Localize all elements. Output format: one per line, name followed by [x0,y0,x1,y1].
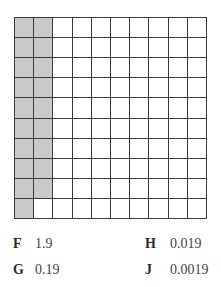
grid-cell [111,18,130,38]
grid-cell-shaded [15,78,34,98]
grid-cell [149,78,168,98]
grid-cell [149,98,168,118]
grid-cell [92,18,111,38]
grid-cell-shaded [15,58,34,78]
grid-cell [111,78,130,98]
grid-cell [130,38,149,58]
grid-cell-shaded [15,199,34,219]
grid-cell-shaded [15,159,34,179]
grid-cell [92,38,111,58]
grid-cell [130,58,149,78]
grid-cell [92,119,111,139]
grid-cell-shaded [34,18,53,38]
grid-cell [188,78,207,98]
grid-cell [53,78,72,98]
grid-cell [92,78,111,98]
grid-cell [53,98,72,118]
grid-cell [92,179,111,199]
grid-cell [53,18,72,38]
grid-cell [188,199,207,219]
grid-cell [188,139,207,159]
grid-cell-shaded [34,98,53,118]
grid-cell [53,119,72,139]
grid-cell [149,18,168,38]
grid-cell [53,199,72,219]
grid-cell [53,159,72,179]
option-letter: J [145,262,170,278]
grid-cell [92,199,111,219]
grid-cell [73,58,92,78]
grid-cell [188,18,207,38]
grid-cell [169,179,188,199]
answer-option-g[interactable]: G0.19 [13,262,60,278]
grid-cell [73,179,92,199]
grid-cell [53,58,72,78]
grid-cell [111,98,130,118]
grid-cell [130,18,149,38]
grid-cell [169,18,188,38]
grid-cell [169,58,188,78]
grid-cell [53,139,72,159]
grid-cell [188,58,207,78]
grid-cell [73,159,92,179]
option-letter: F [13,236,35,252]
grid-cell [169,159,188,179]
grid-cell-shaded [34,159,53,179]
grid-cell [73,18,92,38]
grid-cell-shaded [34,119,53,139]
grid-cell [130,199,149,219]
grid-cell-shaded [34,78,53,98]
grid-cell [169,139,188,159]
grid-cell [169,98,188,118]
grid-cell [73,139,92,159]
grid-cell-shaded [15,179,34,199]
grid-cell [73,38,92,58]
grid-cell [169,199,188,219]
answer-option-j[interactable]: J0.0019 [145,262,209,278]
grid-cell [34,199,53,219]
grid-cell [169,119,188,139]
grid-cell [130,159,149,179]
grid-cell [73,78,92,98]
grid-cell [130,119,149,139]
grid-cell [73,119,92,139]
grid-cell [149,58,168,78]
grid-cell [149,139,168,159]
grid-cell [149,179,168,199]
grid-cell [149,159,168,179]
grid-cell [73,98,92,118]
grid-cell [111,58,130,78]
grid-cell [149,119,168,139]
grid-cell [111,139,130,159]
grid-cell [53,38,72,58]
option-value: 1.9 [35,236,53,251]
grid-cell [188,119,207,139]
grid-cell-shaded [15,119,34,139]
answer-option-h[interactable]: H0.019 [145,236,202,252]
grid-cell-shaded [15,139,34,159]
grid-cell-shaded [34,139,53,159]
grid-cell [149,199,168,219]
grid-cell [92,159,111,179]
grid-cell [130,78,149,98]
grid-cell-shaded [34,38,53,58]
grid-cell [92,98,111,118]
answer-option-f[interactable]: F1.9 [13,236,53,252]
grid-cell-shaded [15,98,34,118]
grid-cell [130,179,149,199]
grid-cell [53,179,72,199]
grid-cell [111,199,130,219]
grid-cell [188,98,207,118]
grid-cell-shaded [15,38,34,58]
grid-cell [111,38,130,58]
hundred-grid [14,17,207,219]
option-letter: G [13,262,35,278]
option-value: 0.0019 [170,262,209,277]
option-letter: H [145,236,170,252]
grid-cell [111,179,130,199]
grid-cell [130,139,149,159]
grid-cell [188,179,207,199]
option-value: 0.019 [170,236,202,251]
grid-cell-shaded [34,58,53,78]
option-value: 0.19 [35,262,60,277]
